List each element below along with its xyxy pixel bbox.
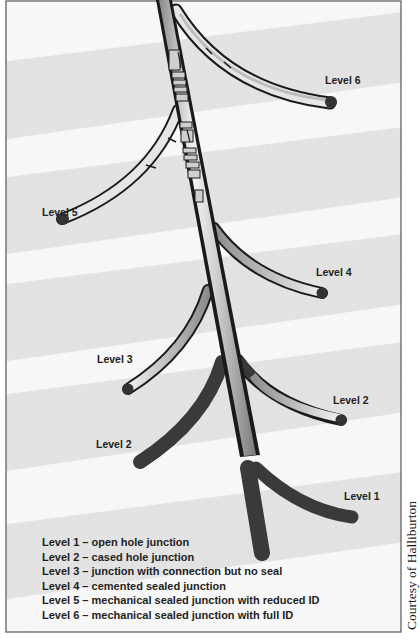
label-level-3: Level 3 — [97, 353, 133, 365]
legend-item-1: Level 1 – open hole junction — [42, 536, 190, 548]
label-level-5: Level 5 — [42, 206, 78, 218]
legend-item-2: Level 2 – cased hole junction — [42, 551, 194, 563]
legend-item-4: Level 4 – cemented sealed junction — [42, 580, 226, 592]
label-level-2-right: Level 2 — [333, 394, 369, 406]
legend-item-6: Level 6 – mechanical sealed junction wit… — [42, 609, 293, 621]
label-level-4: Level 4 — [316, 266, 352, 278]
image-credit: Courtesy of Halliburton — [404, 501, 420, 630]
label-level-6: Level 6 — [325, 74, 361, 86]
legend-item-3: Level 3 – junction with connection but n… — [42, 565, 282, 577]
label-level-1: Level 1 — [344, 490, 380, 502]
label-level-2-left: Level 2 — [96, 438, 132, 450]
legend-item-5: Level 5 – mechanical sealed junction wit… — [42, 594, 320, 606]
